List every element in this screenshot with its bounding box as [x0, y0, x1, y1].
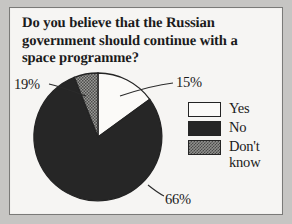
- legend-label-dont-know: Don'tknow: [229, 138, 260, 170]
- legend-swatch-yes-icon: [188, 102, 221, 117]
- pie-label-dont-know-percent: 19%: [14, 76, 40, 93]
- legend-label-dont-know-line2: know: [229, 154, 260, 170]
- legend-swatch-dont-know-icon: [188, 140, 221, 155]
- chart-frame: Do you believe that the Russian governme…: [9, 7, 283, 215]
- leader-line-no: [148, 185, 164, 196]
- legend-label-yes: Yes: [229, 100, 250, 116]
- legend-item-no: No: [188, 119, 280, 136]
- pie-label-no-percent: 66%: [165, 191, 191, 208]
- legend-item-dont-know: Don'tknow: [188, 138, 280, 170]
- pie-label-yes-percent: 15%: [176, 74, 202, 91]
- legend-swatch-no-icon: [188, 121, 221, 136]
- legend-label-dont-know-line1: Don't: [229, 138, 260, 154]
- chart-legend: Yes No Don'tknow: [188, 100, 280, 172]
- legend-label-no: No: [229, 119, 246, 135]
- screenshot-root: Do you believe that the Russian governme…: [0, 0, 292, 224]
- legend-item-yes: Yes: [188, 100, 280, 117]
